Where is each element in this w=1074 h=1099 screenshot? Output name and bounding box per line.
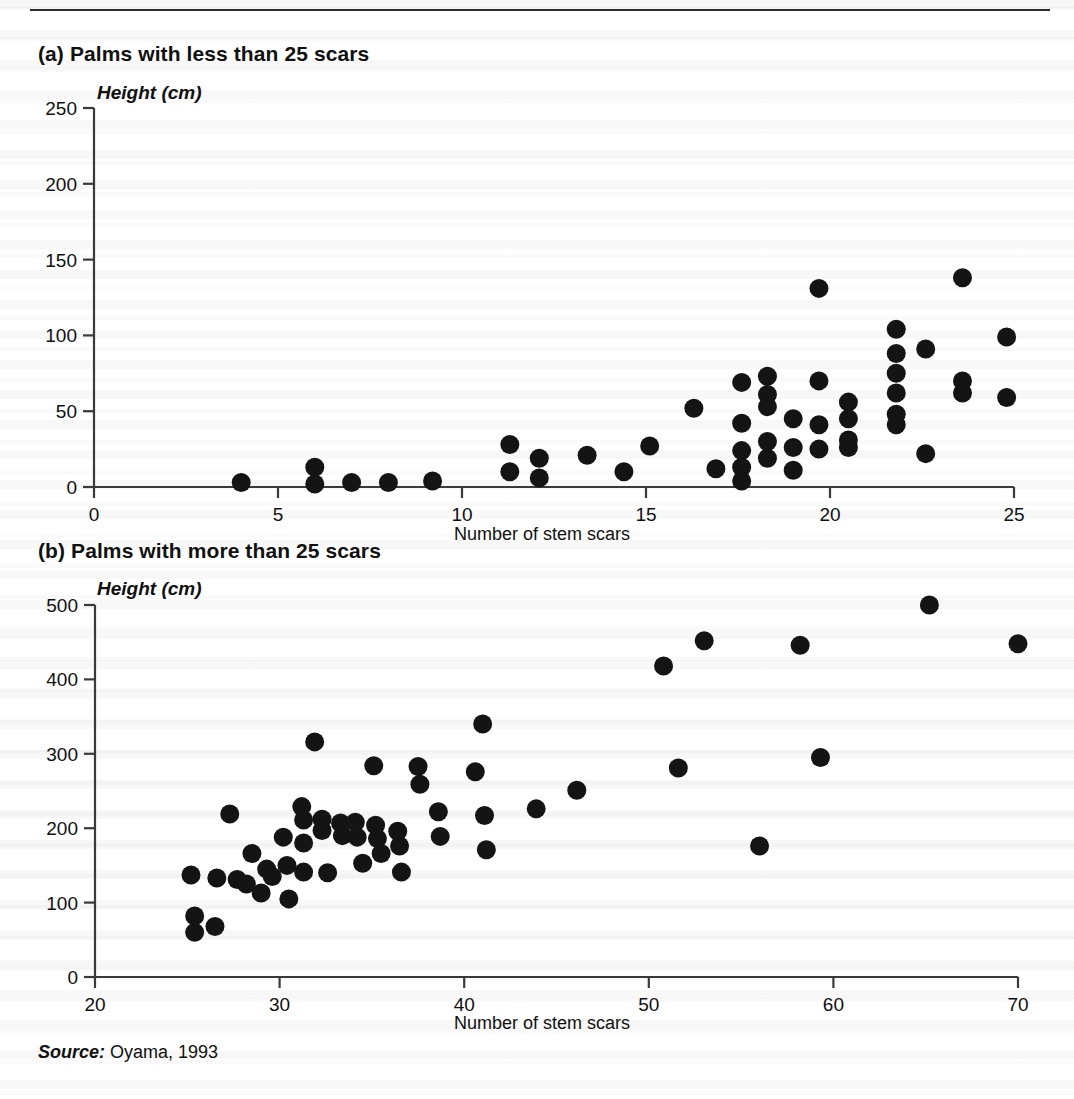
data-point [274, 828, 293, 847]
data-point [305, 458, 324, 477]
data-point [839, 393, 858, 412]
data-point [614, 462, 633, 481]
data-point [348, 828, 367, 847]
data-point [252, 883, 271, 902]
data-point [784, 438, 803, 457]
data-point [232, 473, 251, 492]
data-point [277, 856, 296, 875]
data-point [920, 596, 939, 615]
data-point [839, 431, 858, 450]
data-point [640, 437, 659, 456]
data-point [473, 715, 492, 734]
data-point [809, 440, 828, 459]
data-point [887, 364, 906, 383]
panel-a-x-tick-label: 25 [1003, 504, 1024, 525]
data-point [390, 837, 409, 856]
data-point [791, 636, 810, 655]
panel-b-svg: 0100200300400500203040506070 [0, 592, 1074, 1022]
panel-b-y-tick-label: 200 [46, 818, 78, 839]
data-point [466, 762, 485, 781]
data-point [732, 414, 751, 433]
data-point [684, 399, 703, 418]
panel-a-plot-area: 0501001502002500510152025 [0, 95, 1074, 535]
data-point [809, 371, 828, 390]
data-point [305, 732, 324, 751]
source-citation: Oyama, 1993 [105, 1042, 218, 1062]
panel-b-x-tick-label: 50 [638, 994, 659, 1015]
data-point [567, 781, 586, 800]
data-point [953, 268, 972, 287]
data-point [181, 866, 200, 885]
panel-a-x-tick-label: 15 [635, 504, 656, 525]
data-point [207, 869, 226, 888]
data-point [220, 805, 239, 824]
page-top-rule [30, 9, 1050, 11]
data-point [342, 473, 361, 492]
panel-b-y-tick-label: 300 [46, 744, 78, 765]
data-point [364, 756, 383, 775]
panel-b-y-tick-label: 500 [46, 595, 78, 616]
panel-b-x-axis-label: Number of stem scars [454, 1013, 630, 1034]
data-point [429, 802, 448, 821]
data-point [997, 388, 1016, 407]
data-point [410, 775, 429, 794]
panel-a-title: (a) Palms with less than 25 scars [38, 42, 369, 66]
data-point [706, 459, 725, 478]
data-point [185, 906, 204, 925]
data-point [758, 367, 777, 386]
data-point [530, 468, 549, 487]
data-point [758, 397, 777, 416]
panel-b-x-tick-label: 60 [823, 994, 844, 1015]
data-point [916, 444, 935, 463]
panel-b-x-tick-label: 20 [84, 994, 105, 1015]
panel-a-svg: 0501001502002500510152025 [0, 95, 1074, 535]
data-point [500, 462, 519, 481]
data-point [809, 279, 828, 298]
data-point [205, 917, 224, 936]
data-point [732, 471, 751, 490]
panel-a-y-tick-label: 100 [45, 325, 77, 346]
data-point [185, 923, 204, 942]
source-caption: Source: Oyama, 1993 [38, 1042, 218, 1063]
data-point [294, 863, 313, 882]
data-point [294, 811, 313, 830]
data-point [313, 821, 332, 840]
data-point [811, 748, 830, 767]
data-point [1009, 634, 1028, 653]
data-point [916, 340, 935, 359]
data-point [372, 844, 391, 863]
data-point [784, 461, 803, 480]
source-keyword: Source: [38, 1042, 105, 1062]
data-point [784, 409, 803, 428]
panel-a-y-tick-label: 50 [56, 401, 77, 422]
panel-b-title: (b) Palms with more than 25 scars [38, 539, 381, 563]
data-point [887, 320, 906, 339]
data-point [423, 471, 442, 490]
data-point [953, 384, 972, 403]
panel-a-x-tick-label: 5 [273, 504, 284, 525]
panel-a-x-tick-label: 0 [89, 504, 100, 525]
data-point [294, 834, 313, 853]
data-point [392, 863, 411, 882]
panel-b-x-tick-label: 70 [1007, 994, 1028, 1015]
data-point [732, 373, 751, 392]
data-point [887, 384, 906, 403]
panel-b-y-tick-label: 100 [46, 893, 78, 914]
data-point [750, 837, 769, 856]
data-point [409, 757, 428, 776]
panel-b-x-tick-label: 40 [454, 994, 475, 1015]
data-point [809, 415, 828, 434]
panel-a-y-tick-label: 150 [45, 250, 77, 271]
panel-a-x-tick-label: 20 [819, 504, 840, 525]
data-point [887, 344, 906, 363]
panel-b-data-markers [181, 596, 1027, 942]
data-point [758, 432, 777, 451]
panel-a-y-tick-label: 200 [45, 174, 77, 195]
data-point [318, 863, 337, 882]
panel-b-x-tick-label: 30 [269, 994, 290, 1015]
data-point [578, 446, 597, 465]
data-point [527, 799, 546, 818]
data-point [379, 473, 398, 492]
panel-a-y-tick-label: 250 [45, 98, 77, 119]
data-point [839, 409, 858, 428]
